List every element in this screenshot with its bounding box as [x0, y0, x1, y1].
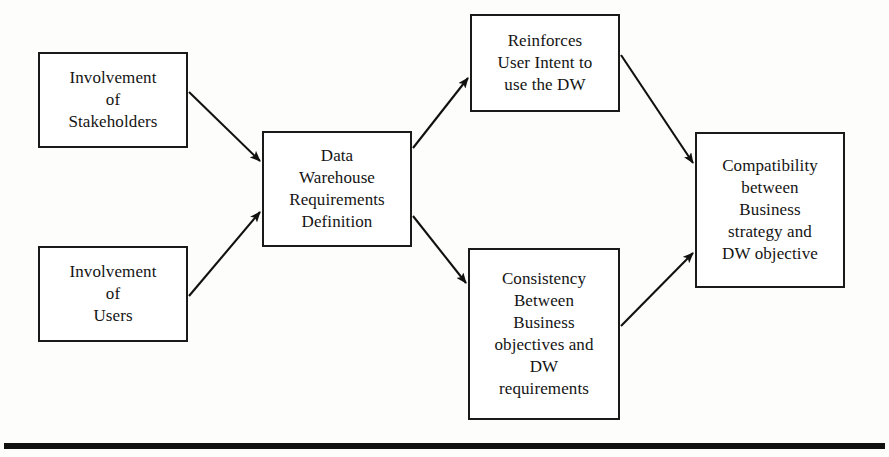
bottom-divider-rule: [4, 443, 885, 449]
edge-requirements-to-reinforces: [413, 78, 468, 148]
edge-requirements-to-consistency: [413, 216, 466, 283]
node-consistency-business-dw[interactable]: Consistency Between Business objectives …: [468, 248, 620, 420]
node-reinforces-user-intent[interactable]: Reinforces User Intent to use the DW: [470, 14, 620, 112]
edge-stakeholders-to-requirements: [189, 92, 260, 161]
node-involvement-stakeholders[interactable]: Involvement of Stakeholders: [38, 52, 188, 148]
node-involvement-users[interactable]: Involvement of Users: [38, 246, 188, 342]
edge-consistency-to-compatibility: [621, 253, 693, 326]
edge-reinforces-to-compatibility: [621, 55, 693, 163]
node-dw-requirements-definition[interactable]: Data Warehouse Requirements Definition: [262, 131, 412, 247]
edge-users-to-requirements: [189, 212, 260, 296]
diagram-canvas: Involvement of Stakeholders Involvement …: [0, 0, 889, 457]
node-compatibility-strategy-objective[interactable]: Compatibility between Business strategy …: [695, 132, 845, 288]
